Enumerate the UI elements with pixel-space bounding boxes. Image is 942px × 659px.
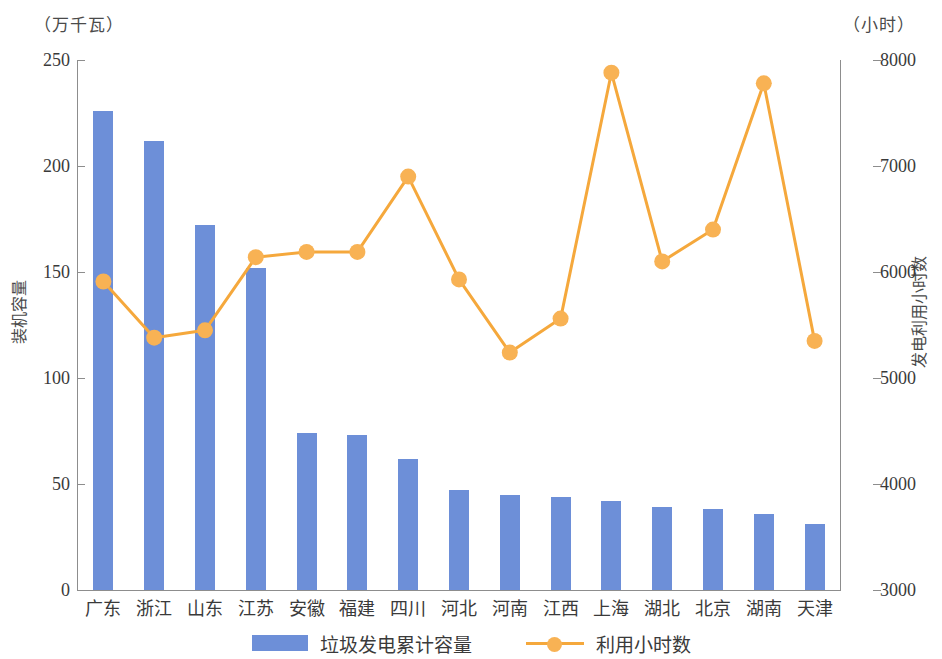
line-marker bbox=[349, 244, 365, 260]
category-label: 河南 bbox=[484, 594, 535, 620]
category-label: 四川 bbox=[383, 594, 434, 620]
category-labels: 广东浙江山东江苏安徽福建四川河北河南江西上海湖北北京湖南天津 bbox=[78, 594, 840, 624]
right-axis-tick-label: 6000 bbox=[880, 262, 940, 282]
legend-bar-swatch-icon bbox=[252, 635, 308, 651]
line-marker bbox=[197, 322, 213, 338]
category-label: 上海 bbox=[586, 594, 637, 620]
chart-legend: 垃圾发电累计容量 利用小时数 bbox=[0, 628, 942, 658]
left-axis-tick-label: 150 bbox=[18, 262, 70, 282]
right-axis-ticks: 300040005000600070008000 bbox=[880, 0, 940, 659]
line-marker bbox=[705, 222, 721, 238]
right-axis-tick-mark bbox=[873, 378, 881, 379]
x-axis-line bbox=[77, 590, 841, 591]
line-marker bbox=[400, 169, 416, 185]
left-axis-tick-label: 200 bbox=[18, 156, 70, 176]
category-label: 河北 bbox=[434, 594, 485, 620]
right-axis-tick-label: 3000 bbox=[880, 580, 940, 600]
chart-container: （万千瓦） （小时） 装机容量 发电利用小时数 050100150200250 … bbox=[0, 0, 942, 659]
line-marker bbox=[299, 244, 315, 260]
right-axis-line bbox=[840, 60, 841, 591]
category-label: 浙江 bbox=[129, 594, 180, 620]
legend-item-bar: 垃圾发电累计容量 bbox=[252, 630, 472, 657]
right-axis-tick-mark bbox=[873, 60, 881, 61]
line-marker bbox=[95, 274, 111, 290]
legend-line-dot-icon bbox=[547, 637, 562, 652]
line-marker bbox=[756, 75, 772, 91]
left-axis-tick-label: 0 bbox=[18, 580, 70, 600]
category-label: 北京 bbox=[688, 594, 739, 620]
left-axis-tick-label: 50 bbox=[18, 474, 70, 494]
left-axis-tick-label: 100 bbox=[18, 368, 70, 388]
right-axis-tick-mark bbox=[873, 484, 881, 485]
line-marker bbox=[807, 333, 823, 349]
right-axis-tick-label: 4000 bbox=[880, 474, 940, 494]
right-axis-tick-mark bbox=[873, 590, 881, 591]
line-marker bbox=[248, 249, 264, 265]
category-label: 湖南 bbox=[738, 594, 789, 620]
line-marker bbox=[502, 345, 518, 361]
category-label: 湖北 bbox=[637, 594, 688, 620]
category-label: 山东 bbox=[180, 594, 231, 620]
category-label: 江西 bbox=[535, 594, 586, 620]
right-axis-tick-label: 8000 bbox=[880, 50, 940, 70]
category-label: 安徽 bbox=[281, 594, 332, 620]
right-axis-tick-mark bbox=[873, 272, 881, 273]
category-label: 江苏 bbox=[230, 594, 281, 620]
category-label: 广东 bbox=[78, 594, 129, 620]
right-axis-tick-label: 5000 bbox=[880, 368, 940, 388]
line-markers bbox=[95, 65, 822, 361]
category-label: 福建 bbox=[332, 594, 383, 620]
line-marker bbox=[603, 65, 619, 81]
line-series bbox=[78, 60, 840, 590]
line-marker bbox=[553, 311, 569, 327]
category-label: 天津 bbox=[789, 594, 840, 620]
right-axis-tick-label: 7000 bbox=[880, 156, 940, 176]
right-axis-tick-mark bbox=[873, 166, 881, 167]
line-path bbox=[103, 73, 814, 353]
line-marker bbox=[146, 330, 162, 346]
left-axis-tick-label: 250 bbox=[18, 50, 70, 70]
line-marker bbox=[654, 253, 670, 269]
legend-label-bar: 垃圾发电累计容量 bbox=[320, 630, 472, 657]
plot-area bbox=[78, 60, 840, 590]
legend-label-line: 利用小时数 bbox=[596, 630, 691, 657]
line-marker bbox=[451, 271, 467, 287]
legend-line-swatch-icon bbox=[526, 635, 584, 651]
left-axis-ticks: 050100150200250 bbox=[18, 0, 70, 659]
legend-item-line: 利用小时数 bbox=[526, 630, 691, 657]
